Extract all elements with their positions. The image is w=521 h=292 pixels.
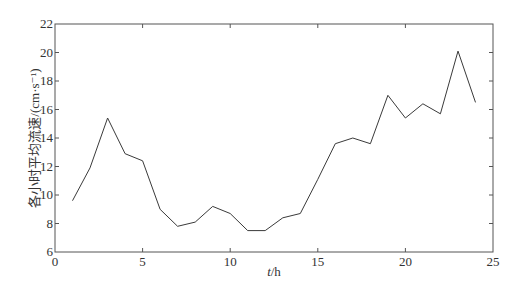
data-line [73, 51, 476, 231]
tick-labels: 05101520256810121416182022 [40, 16, 500, 269]
y-tick-label: 22 [40, 16, 53, 31]
y-tick-label: 20 [40, 45, 53, 60]
x-tick-label: 25 [487, 254, 500, 269]
y-axis-title: 各小时平均流速/(cm·s⁻¹) [27, 68, 42, 207]
y-tick-label: 6 [47, 244, 54, 259]
line-chart: 05101520256810121416182022 t/h 各小时平均流速/(… [0, 0, 521, 292]
y-tick-label: 8 [47, 216, 54, 231]
x-tick-label: 5 [139, 254, 146, 269]
axis-ticks [55, 24, 493, 252]
plot-frame [55, 24, 493, 252]
x-tick-label: 15 [311, 254, 324, 269]
x-axis-title: t/h [267, 264, 281, 279]
y-tick-label: 16 [40, 102, 54, 117]
x-tick-label: 10 [224, 254, 237, 269]
x-tick-label: 20 [399, 254, 412, 269]
y-tick-label: 14 [40, 130, 54, 145]
